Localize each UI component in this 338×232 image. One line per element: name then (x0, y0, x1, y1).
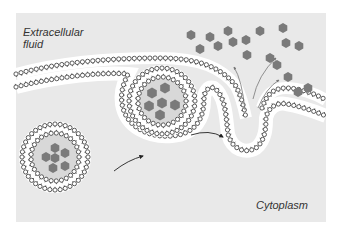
cargo-molecule (279, 23, 288, 33)
extracellular-fluid-label: Extracellular fluid (23, 26, 84, 50)
cargo-molecule (243, 50, 252, 60)
cargo-molecule (187, 30, 196, 40)
cargo-molecule (273, 60, 282, 70)
cargo-molecule (242, 35, 251, 45)
cargo-molecule (229, 37, 238, 47)
cargo-molecule (284, 72, 293, 82)
cargo-molecule (256, 26, 265, 36)
cargo-molecule (214, 41, 223, 51)
cargo-molecule (224, 26, 233, 36)
cargo-molecule (206, 32, 215, 42)
transition-arrow (114, 156, 143, 171)
cargo-molecule (282, 38, 291, 48)
cytoplasm-label: Cytoplasm (256, 199, 308, 211)
cargo-molecule (196, 44, 205, 54)
cargo-molecule (295, 41, 304, 51)
exocytosis-diagram: Extracellular fluid Cytoplasm (0, 0, 338, 232)
